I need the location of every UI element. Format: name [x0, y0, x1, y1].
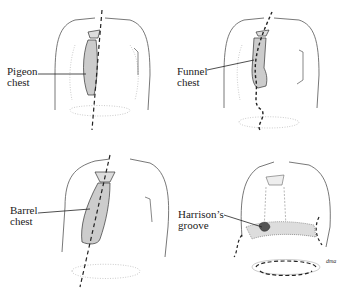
label-pigeon-chest: Pigeon chest: [7, 66, 38, 88]
label-line-2: chest: [7, 77, 38, 88]
label-line-2: chest: [10, 216, 37, 227]
label-line-2: groove: [178, 220, 224, 231]
panel-funnel-chest: Funnel chest: [174, 0, 347, 147]
panel-harrisons-groove: Harrison’s groove dma: [174, 147, 347, 294]
label-barrel-chest: Barrel chest: [10, 205, 37, 227]
artist-signature: dma: [326, 258, 336, 264]
panel-barrel-chest: Barrel chest: [0, 147, 173, 294]
panel-pigeon-chest: Pigeon chest: [0, 0, 173, 147]
label-harrisons-groove: Harrison’s groove: [178, 209, 224, 231]
label-funnel-chest: Funnel chest: [177, 66, 208, 88]
label-line-2: chest: [177, 77, 208, 88]
